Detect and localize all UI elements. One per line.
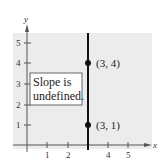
x-tick-5: 5 <box>126 150 131 160</box>
point-3-1 <box>85 122 91 128</box>
point-label-3-1: (3, 1) <box>96 119 120 132</box>
y-tick-4: 4 <box>16 58 21 68</box>
y-tick-1: 1 <box>16 120 21 130</box>
point-3-4 <box>85 60 91 66</box>
y-tick-2: 2 <box>16 100 21 110</box>
y-tick-3: 3 <box>16 79 21 89</box>
x-tick-2: 2 <box>66 150 71 160</box>
x-tick-1: 1 <box>45 150 50 160</box>
annotation-line-1: Slope is <box>33 75 72 89</box>
chart: y x 1 2 4 5 1 2 3 4 5 (3, 4) (3, 1) Slop… <box>0 0 160 168</box>
x-tick-4: 4 <box>106 150 111 160</box>
annotation-line-2: undefined. <box>33 89 84 103</box>
point-label-3-4: (3, 4) <box>96 57 120 70</box>
y-axis-arrow-icon <box>25 24 29 32</box>
x-axis-label: x <box>152 140 157 150</box>
y-axis-label: y <box>23 14 28 24</box>
y-tick-5: 5 <box>16 38 21 48</box>
